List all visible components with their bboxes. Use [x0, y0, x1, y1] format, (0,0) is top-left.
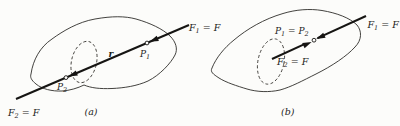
cross-section-ellipse-a	[67, 39, 101, 86]
arrowhead-f1-b	[316, 33, 325, 39]
point-p1-label-a: P1	[140, 50, 150, 61]
force2-value-a: = F	[19, 107, 40, 118]
point-p2-marker-a	[64, 76, 68, 80]
r-symbol: r	[109, 49, 114, 59]
points-mid-b: = P	[285, 26, 304, 36]
force1-value-b: = F	[378, 19, 399, 30]
force2-label-b: F2 = F	[277, 57, 308, 69]
force1-label-a: F1 = F	[189, 23, 220, 35]
force2-label-a: F2 = F	[8, 108, 39, 120]
p2-subscript-a: 2	[63, 86, 67, 94]
coincident-points-label-b: P1 = P2	[275, 27, 309, 38]
force-line-of-action-a	[16, 25, 189, 99]
rigid-body-outline-a	[31, 17, 177, 91]
points-subscript2-b: 2	[305, 30, 309, 38]
figure-container: F1 = F P1 r P2 F2 = F (a) P1 = P2 F1 = F…	[0, 0, 400, 126]
caption-b-text: (b)	[281, 106, 295, 117]
position-vector-r-label: r	[109, 50, 114, 59]
p1-subscript-a: 1	[146, 53, 150, 61]
force2-value-b: = F	[288, 56, 309, 67]
arrowhead-f1-a	[150, 36, 159, 42]
caption-a-text: (a)	[85, 106, 98, 117]
force2-symbol-a: F	[8, 107, 15, 118]
force2-symbol-b: F	[277, 56, 284, 67]
diagram-canvas	[0, 0, 400, 126]
caption-a: (a)	[85, 107, 98, 117]
point-p1-marker-a	[145, 41, 149, 45]
force1-label-b: F1 = F	[368, 20, 399, 32]
arrowhead-f2-b	[302, 42, 311, 48]
rigid-body-outline-b	[211, 10, 360, 92]
arrowhead-f2-a	[69, 70, 78, 76]
force1-symbol-a: F	[189, 22, 196, 33]
panel-a-drawing	[16, 17, 189, 99]
point-p2-label-a: P2	[57, 83, 67, 94]
point-p1p2-marker-b	[312, 38, 316, 42]
force1-value-a: = F	[200, 22, 221, 33]
panel-b-drawing	[211, 10, 366, 92]
caption-b: (b)	[281, 107, 295, 117]
